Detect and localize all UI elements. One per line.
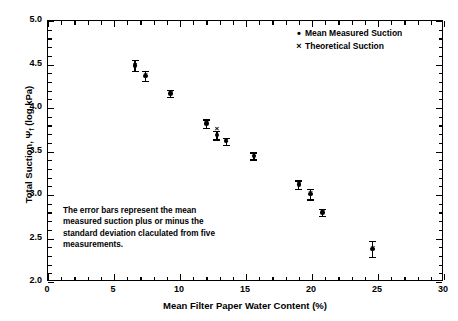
axis-tick [391,277,392,281]
axis-tick [48,38,52,39]
y-tick-label: 4.0 [14,101,42,111]
axis-tick [378,274,379,280]
chart-legend: • Mean Measured Suction × Theoretical Su… [293,27,402,53]
axis-tick [48,143,52,144]
axis-tick [404,277,405,281]
error-bar-cap-lower [319,216,326,217]
axis-tick [180,274,181,280]
axis-tick [404,21,405,25]
axis-tick [299,21,300,25]
legend-x-marker-icon: × [293,40,305,53]
marker-x-icon: × [203,119,210,126]
axis-tick [48,273,52,274]
annotation-line: measurements. [63,239,298,250]
chart-annotation-text: The error bars represent the meanmeasure… [63,205,298,250]
axis-tick [365,277,366,281]
axis-tick [48,221,52,222]
axis-tick [220,277,221,281]
axis-tick [48,230,52,231]
axis-tick [48,247,52,248]
axis-tick [48,82,52,83]
axis-tick [439,117,443,118]
scatter-chart-figure: Total Suction, Ψf (log kPa) 2.02.53.03.5… [0,0,458,321]
axis-tick [48,134,52,135]
x-tick-label: 30 [428,284,458,294]
axis-tick [48,21,54,22]
axis-tick [299,277,300,281]
axis-tick [206,277,207,281]
error-bar-cap-lower [369,257,376,258]
axis-tick [439,169,443,170]
y-tick-label: 3.0 [14,188,42,198]
marker-x-icon: × [167,89,174,96]
axis-tick [439,134,443,135]
y-axis-title-subscript: f [28,129,35,131]
axis-tick [48,178,52,179]
marker-x-icon: × [142,71,149,78]
axis-tick [272,21,273,25]
marker-x-icon: × [295,180,302,187]
y-tick-label: 3.5 [14,145,42,155]
axis-tick [114,21,115,27]
y-tick-label: 2.5 [14,232,42,242]
legend-item-mean-measured-suction: • Mean Measured Suction [293,27,402,40]
axis-tick [286,21,287,25]
axis-tick [439,230,443,231]
axis-tick [436,195,442,196]
error-bar-cap-lower [295,189,302,190]
axis-tick [259,277,260,281]
axis-tick [436,21,442,22]
axis-tick [439,99,443,100]
marker-dot-icon [215,133,220,138]
axis-tick [61,21,62,25]
axis-tick [74,277,75,281]
x-tick-label: 20 [296,284,326,294]
legend-dot-marker-icon: • [293,27,305,40]
axis-tick [48,265,52,266]
legend-label-theoretical-suction: Theoretical Suction [305,40,384,53]
axis-tick [444,21,445,27]
axis-tick [88,277,89,281]
y-tick-label: 5.0 [14,14,42,24]
marker-x-icon: × [132,61,139,68]
axis-tick [439,212,443,213]
axis-tick [101,277,102,281]
axis-tick [48,65,54,66]
axis-tick [439,30,443,31]
axis-tick [391,21,392,25]
axis-tick [48,160,52,161]
plot-area: ××××××××××× • Mean Measured Suction × Th… [47,20,443,281]
axis-tick [61,277,62,281]
axis-tick [233,277,234,281]
axis-tick [48,47,52,48]
axis-tick [140,21,141,25]
axis-tick [439,125,443,126]
axis-tick [193,21,194,25]
axis-tick [439,221,443,222]
marker-x-icon: × [319,208,326,215]
x-axis-title: Mean Filter Paper Water Content (%) [47,300,443,311]
axis-tick [444,274,445,280]
axis-tick [88,21,89,25]
annotation-line: The error bars represent the mean [63,205,298,216]
axis-tick [180,21,181,27]
annotation-line: standard deviation claculated from five [63,228,298,239]
axis-tick [48,204,52,205]
error-bar-cap-lower [142,81,149,82]
axis-tick [48,169,52,170]
axis-tick [418,21,419,25]
axis-tick [48,56,52,57]
axis-tick [167,21,168,25]
axis-tick [259,21,260,25]
axis-tick [48,282,54,283]
axis-tick [48,152,54,153]
marker-x-icon: × [223,137,230,144]
axis-tick [439,178,443,179]
error-bar-cap-lower [203,128,210,129]
axis-tick [74,21,75,25]
axis-tick [246,21,247,27]
x-tick-label: 5 [98,284,128,294]
error-bar-cap-lower [307,199,314,200]
axis-tick [220,21,221,25]
error-bar-cap-lower [132,71,139,72]
